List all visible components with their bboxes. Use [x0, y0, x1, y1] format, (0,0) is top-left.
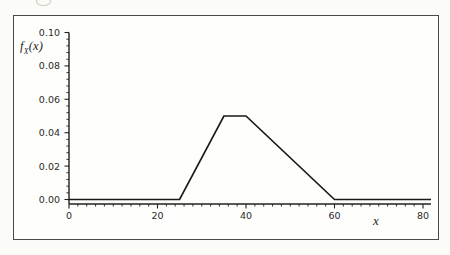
y-tick-label: 0.06 [39, 94, 60, 105]
cropped-text-fragment [36, 0, 51, 6]
y-axis-label: fX(x) [20, 39, 64, 56]
figure-page: 0204060800.000.020.040.060.080.10 fX(x) … [0, 0, 450, 255]
x-tick-label: 40 [240, 210, 252, 221]
y-tick-label: 0.02 [39, 161, 60, 172]
plot-frame: 0204060800.000.020.040.060.080.10 fX(x) … [13, 15, 439, 240]
y-tick-label: 0.08 [39, 60, 60, 71]
x-tick-label: 60 [328, 210, 340, 221]
y-tick-label: 0.10 [39, 27, 60, 38]
x-axis-label: x [368, 213, 384, 229]
y-axis-label-args: (x) [29, 39, 43, 53]
pdf-plot: 0204060800.000.020.040.060.080.10 [14, 16, 438, 239]
x-tick-label: 80 [417, 210, 429, 221]
x-tick-label: 0 [66, 210, 72, 221]
pdf-curve [69, 116, 431, 200]
x-tick-label: 20 [151, 210, 163, 221]
y-tick-label: 0.00 [39, 194, 60, 205]
y-tick-label: 0.04 [39, 127, 60, 138]
